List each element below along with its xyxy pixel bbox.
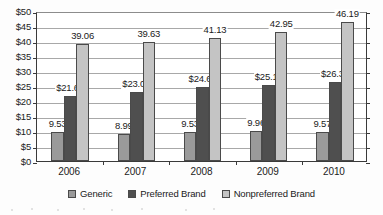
legend-item-generic[interactable]: Generic [68,189,112,199]
legend-swatch-preferred-brand [128,190,136,198]
bar-preferred-brand-2007 [130,92,143,161]
axis-tick [366,88,370,89]
axis-tick [33,13,37,14]
axis-tick [33,148,37,149]
y-tick-label: $30 [16,67,31,77]
axis-tick [366,118,370,119]
bar-value-label: 41.13 [203,25,228,35]
axis-tick [33,118,37,119]
bar-nonpreferred-brand-2007 [143,42,156,161]
axis-tick [33,73,37,74]
x-tick-label-2007: 2007 [124,166,146,178]
bar-generic-2009 [250,131,263,161]
bar-preferred-brand-2010 [329,82,342,161]
x-axis-tick [103,161,104,165]
scan-artifacts [0,204,383,215]
bar-value-label: 46.19 [335,9,360,19]
x-tick-label-2010: 2010 [323,166,345,178]
legend-label: Nonpreferred Brand [234,189,315,199]
axis-tick [33,43,37,44]
y-tick-label: $35 [16,52,31,62]
bar-group: 9.53$21.6139.06 [51,13,89,161]
bar-group: 8.99$23.0839.63 [118,13,156,161]
x-axis-tick [302,161,303,165]
y-tick-label: $25 [16,82,31,92]
bar-preferred-brand-2009 [262,85,275,161]
bar-value-label: 39.63 [136,29,161,39]
x-tick-label-2008: 2008 [191,166,213,178]
bar-generic-2008 [184,132,197,161]
legend-swatch-nonpreferred-brand [222,190,230,198]
legend-label: Generic [80,189,112,199]
bar-nonpreferred-brand-2010 [341,22,354,161]
bar-group: 9.53$24.6241.13 [184,13,222,161]
chart-legend: GenericPreferred BrandNonpreferred Brand [0,186,383,202]
bar-group: 9.57$26.3146.19 [316,13,354,161]
axis-tick [33,103,37,104]
bar-group: 9.96$25.1942.95 [250,13,288,161]
axis-tick [366,43,370,44]
plot-area: 9.53$21.6139.068.99$23.0839.639.53$24.62… [36,12,367,162]
axis-tick [366,58,370,59]
legend-item-nonpreferred-brand[interactable]: Nonpreferred Brand [222,189,315,199]
axis-tick [366,163,370,164]
axis-tick [366,103,370,104]
bar-generic-2007 [118,134,131,161]
bar-generic-2006 [51,132,64,161]
legend-swatch-generic [68,190,76,198]
y-tick-label: $15 [16,112,31,122]
bar-nonpreferred-brand-2006 [76,44,89,161]
y-tick-label: $20 [16,97,31,107]
bar-value-label: 42.95 [269,19,294,29]
axis-tick [366,28,370,29]
x-axis: 20062007200820092010 [36,166,367,180]
bar-nonpreferred-brand-2009 [275,32,288,161]
y-tick-label: $5 [21,142,31,152]
axis-tick [366,73,370,74]
axis-tick [33,58,37,59]
axis-tick [33,28,37,29]
bar-chart: $0$5$10$15$20$25$30$35$40$45$50 9.53$21.… [0,0,383,215]
bar-preferred-brand-2008 [196,87,209,161]
y-tick-label: $50 [16,7,31,17]
axis-tick [33,163,37,164]
bar-preferred-brand-2006 [64,96,77,161]
y-tick-label: $40 [16,37,31,47]
x-axis-tick [236,161,237,165]
bar-generic-2010 [316,132,329,161]
axis-tick [366,13,370,14]
axis-tick [366,148,370,149]
axis-tick [366,133,370,134]
axis-tick [33,88,37,89]
legend-item-preferred-brand[interactable]: Preferred Brand [128,189,205,199]
y-tick-label: $45 [16,22,31,32]
bar-nonpreferred-brand-2008 [209,38,222,161]
x-tick-label-2009: 2009 [257,166,279,178]
x-tick-label-2006: 2006 [58,166,80,178]
y-axis: $0$5$10$15$20$25$30$35$40$45$50 [0,12,34,162]
y-tick-label: $0 [21,157,31,167]
legend-label: Preferred Brand [140,189,205,199]
axis-tick [33,133,37,134]
x-axis-tick [169,161,170,165]
bar-value-label: 39.06 [70,31,95,41]
y-tick-label: $10 [16,127,31,137]
